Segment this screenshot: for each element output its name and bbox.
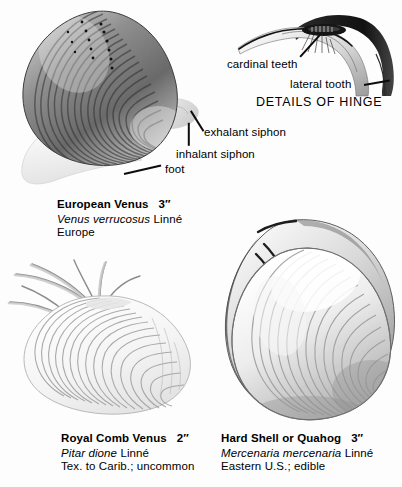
inhalant-siphon-label: inhalant siphon <box>176 148 255 160</box>
royal-comb-venus-scientific-name: Pitar dione Linné <box>61 447 194 459</box>
european-venus-scientific-name: Venus verrucosus Linné <box>57 213 182 225</box>
european-venus-common-name: European Venus <box>57 198 149 210</box>
royal-comb-venus-illustration <box>2 258 208 423</box>
hard-shell-quahog-range: Eastern U.S.; edible <box>221 460 373 472</box>
hinge-detail-title: DETAILS OF HINGE <box>256 95 382 109</box>
shell-field-guide-plate: DETAILS OF HINGE cardinal teeth lateral … <box>0 0 402 487</box>
hard-shell-quahog-illustration <box>212 214 402 426</box>
exhalant-siphon-label: exhalant siphon <box>204 126 286 138</box>
inhalant-siphon-leader-line <box>188 123 190 146</box>
european-venus-size: 3″ <box>149 198 171 210</box>
european-venus-range: Europe <box>57 226 182 238</box>
hard-shell-quahog-common-name: Hard Shell or Quahog <box>221 432 341 444</box>
cardinal-teeth-label: cardinal teeth <box>227 58 297 70</box>
hard-shell-quahog-size: 3″ <box>341 432 363 444</box>
royal-comb-venus-caption: Royal Comb Venus2″ Pitar dione Linné Tex… <box>61 428 194 472</box>
royal-comb-venus-range: Tex. to Carib.; uncommon <box>61 460 194 472</box>
hard-shell-quahog-caption: Hard Shell or Quahog3″ Mercenaria mercen… <box>221 428 373 472</box>
foot-label: foot <box>165 163 185 175</box>
european-venus-caption: European Venus3″ Venus verrucosus Linné … <box>57 194 182 238</box>
royal-comb-venus-common-name: Royal Comb Venus <box>61 432 167 444</box>
royal-comb-venus-size: 2″ <box>167 432 189 444</box>
hard-shell-quahog-scientific-name: Mercenaria mercenaria Linné <box>221 447 373 459</box>
lateral-tooth-label: lateral tooth <box>290 78 351 90</box>
